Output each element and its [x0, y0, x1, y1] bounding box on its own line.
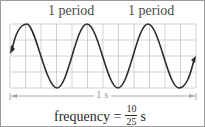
fraction-denominator: 25	[126, 116, 136, 127]
period-label-1: 1 period	[48, 4, 94, 18]
caption-fraction: 10 25	[125, 104, 137, 127]
caption-unit: s	[140, 110, 145, 124]
fraction-numerator: 10	[125, 104, 137, 116]
period-label-2: 1 period	[128, 4, 174, 18]
duration-label: 1 s	[94, 89, 111, 100]
caption-prefix: frequency =	[54, 110, 121, 124]
frequency-caption: frequency = 10 25 s	[54, 105, 146, 127]
